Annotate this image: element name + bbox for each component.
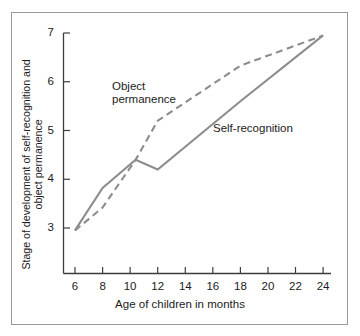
x-tick-label-14: 14 <box>179 281 192 293</box>
series-annotation-self-recognition: Self-recognition <box>213 122 293 135</box>
x-tick-label-22: 22 <box>289 281 302 293</box>
series-annotation-object-permanence: Object permanence <box>112 80 176 105</box>
x-axis-title: Age of children in months <box>0 298 360 310</box>
y-tick-label-7: 7 <box>38 27 54 39</box>
x-tick-label-24: 24 <box>317 281 330 293</box>
x-tick-label-8: 8 <box>99 281 105 293</box>
x-tick-label-10: 10 <box>124 281 137 293</box>
x-tick-label-16: 16 <box>206 281 219 293</box>
x-tick-label-20: 20 <box>262 281 275 293</box>
x-tick-label-18: 18 <box>234 281 247 293</box>
y-axis-title-line1: Stage of development of self-recognition… <box>20 49 32 279</box>
y-axis-title: Stage of development of self-recognition… <box>20 49 45 279</box>
chart-figure: 7 6 5 4 3 6 8 10 12 14 16 18 20 22 24 Ag… <box>0 0 360 336</box>
y-axis-title-line2: object permanence <box>32 49 44 279</box>
x-tick-label-6: 6 <box>72 281 78 293</box>
x-tick-label-12: 12 <box>151 281 164 293</box>
